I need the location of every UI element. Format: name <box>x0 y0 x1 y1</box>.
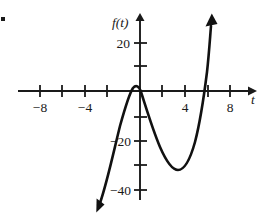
y-tick-label-20: 20 <box>117 36 131 51</box>
y-tick-label--20: −20 <box>110 134 131 149</box>
figure-container: −8 −4 4 8 20 −20 −40 f(t) t <box>0 0 264 217</box>
x-tick-label-8: 8 <box>227 100 234 115</box>
function-curve <box>100 26 211 203</box>
x-axis-label: t <box>251 92 256 107</box>
x-tick-label--8: −8 <box>33 100 48 115</box>
y-axis-arrowhead <box>136 13 145 21</box>
y-axis-label: f(t) <box>112 15 129 30</box>
y-tick-label--40: −40 <box>110 183 131 198</box>
x-tick-label--4: −4 <box>78 100 93 115</box>
curve-arrowhead-right <box>206 14 218 27</box>
graph-plot: −8 −4 4 8 20 −20 −40 f(t) t <box>0 0 264 217</box>
x-tick-label-4: 4 <box>182 100 189 115</box>
